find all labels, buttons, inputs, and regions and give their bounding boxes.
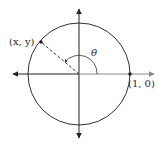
- point-xy: [39, 40, 43, 44]
- label-theta: θ: [91, 47, 97, 58]
- label-point-1-0: (1, 0): [128, 78, 155, 89]
- radius-dashed: [41, 42, 79, 74]
- unit-circle-diagram: (x, y) (1, 0) θ: [0, 0, 164, 146]
- theta-arc: [65, 55, 97, 74]
- point-1-0: [128, 72, 132, 76]
- label-point-xy: (x, y): [9, 36, 35, 47]
